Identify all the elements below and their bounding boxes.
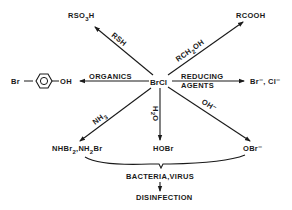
label-nh3: NH3 [91, 110, 110, 128]
label-reducing: REDUCING [181, 72, 223, 81]
product-bromophenol: Br OH [11, 74, 72, 88]
arrow-rsh [95, 27, 153, 75]
brcl-reaction-diagram: BrCl RSH RSO3H RCH2OH RCOOH ORGANICS Br … [0, 0, 292, 210]
product-halides: Br⁻, Cl⁻ [250, 77, 280, 86]
arrow-oh [168, 87, 250, 141]
arrow-rch2oh [168, 22, 243, 75]
product-rcooh: RCOOH [236, 11, 265, 20]
label-bacteria-virus: BACTERIA,VIRUS [126, 172, 194, 181]
product-rso3h: RSO3H [68, 11, 95, 22]
center-compound-brcl: BrCl [150, 78, 167, 87]
benzene-ring-icon [36, 74, 52, 88]
label-organics: ORGANICS [89, 72, 132, 81]
label-h2o: H2O [150, 106, 161, 122]
product-bromamines: NHBr2,NH2Br [52, 144, 102, 155]
product-obr: OBr⁻ [243, 144, 262, 153]
label-disinfection: DISINFECTION [136, 193, 193, 202]
product-hobr: HOBr [153, 144, 174, 153]
label-agents: AGENTS [181, 81, 214, 90]
arrow-nh3 [80, 88, 151, 141]
label-oh: OH⁻ [200, 97, 218, 113]
curly-brace [85, 155, 245, 168]
bromophenol-oh: OH [60, 77, 72, 86]
label-rsh: RSH [110, 31, 129, 49]
bromophenol-br: Br [11, 77, 20, 86]
